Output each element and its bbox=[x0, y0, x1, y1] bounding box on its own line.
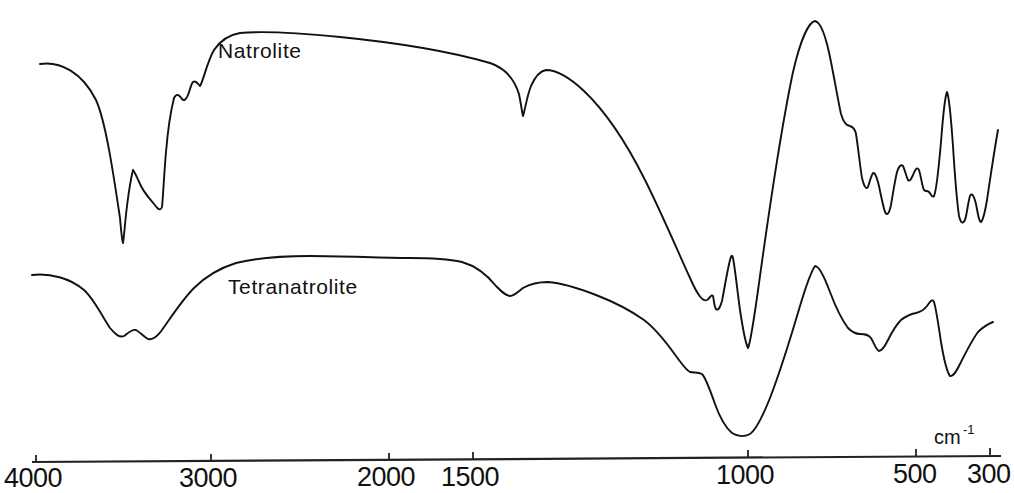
tick-label-3000: 3000 bbox=[179, 463, 237, 493]
series-label-tetranatrolite: Tetranatrolite bbox=[228, 275, 358, 298]
series-label-natrolite: Natrolite bbox=[218, 39, 302, 62]
tick-label-500: 500 bbox=[893, 459, 937, 489]
axis-unit-base: cm bbox=[934, 426, 961, 448]
tick-label-1000: 1000 bbox=[716, 460, 774, 490]
axis-unit-exponent: -1 bbox=[963, 422, 975, 437]
spectrum-plot: 4000 3000 2000 1500 1000 500 300 cm -1 N… bbox=[0, 0, 1014, 493]
tick-label-300: 300 bbox=[967, 459, 1011, 489]
trace-tetranatrolite bbox=[32, 256, 993, 436]
ir-spectrum-figure: 4000 3000 2000 1500 1000 500 300 cm -1 N… bbox=[0, 0, 1014, 493]
tick-label-2000: 2000 bbox=[357, 462, 415, 492]
x-axis-line bbox=[32, 456, 1001, 462]
tick-label-1500: 1500 bbox=[441, 462, 499, 492]
axis-unit-label: cm -1 bbox=[934, 422, 975, 448]
tick-label-4000: 4000 bbox=[4, 463, 62, 493]
